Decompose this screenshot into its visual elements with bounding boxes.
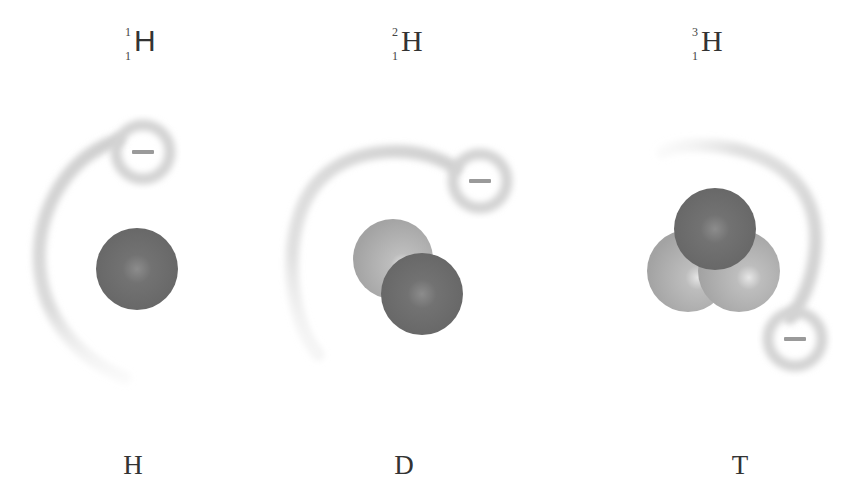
element-symbol: H (401, 26, 423, 56)
isotope-name-deuterium: D (394, 450, 414, 480)
nuclide-label-protium: 1 1 H (116, 20, 196, 70)
electron-minus-icon (784, 337, 806, 341)
electron-minus-icon (469, 179, 491, 183)
deuterium-atom (292, 152, 507, 355)
mass-number: 3 (692, 26, 698, 38)
atomic-number: 1 (125, 50, 131, 62)
protium-atom (39, 125, 178, 378)
atomic-number: 1 (392, 50, 398, 62)
isotope-illustrations (0, 0, 854, 499)
proton (96, 228, 178, 310)
proton (674, 188, 756, 270)
isotope-name-protium: H (123, 450, 143, 480)
nuclide-label-deuterium: 2 1 H (383, 20, 463, 70)
mass-number: 2 (392, 26, 398, 38)
nuclide-label-tritium: 3 1 H (683, 20, 763, 70)
element-symbol: H (134, 26, 156, 56)
isotope-name-tritium: T (732, 450, 749, 480)
electron-minus-icon (132, 150, 154, 154)
proton (381, 253, 463, 335)
atomic-number: 1 (692, 50, 698, 62)
tritium-atom (647, 145, 822, 366)
isotope-diagram: 1 1 H 2 1 H 3 1 H H D T (0, 0, 854, 499)
element-symbol: H (701, 26, 723, 56)
mass-number: 1 (125, 26, 131, 38)
